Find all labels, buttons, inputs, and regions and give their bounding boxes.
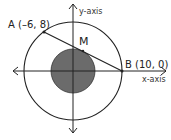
label-y-axis: y-axis xyxy=(79,8,103,16)
label-point-m: M xyxy=(79,36,89,47)
point-a xyxy=(43,31,46,34)
label-x-axis: x-axis xyxy=(142,76,166,84)
point-b xyxy=(121,70,124,73)
label-point-a: A (–6, 8) xyxy=(8,20,50,30)
point-m xyxy=(82,50,84,52)
label-point-b: B (10, 0) xyxy=(125,60,168,70)
